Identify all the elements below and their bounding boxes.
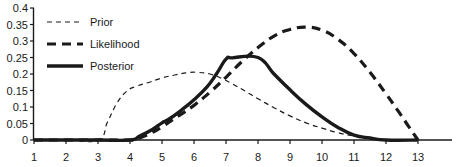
x-axis-tick-label: 6: [191, 152, 197, 163]
axes: [34, 8, 453, 140]
x-axis-tick-label: 10: [316, 152, 328, 163]
x-axis-tick-label: 3: [95, 152, 101, 163]
legend-label-likelihood: Likelihood: [90, 39, 140, 50]
y-axis-tick-label: 0.1: [13, 102, 28, 113]
y-axis-tick-label: 0.05: [7, 118, 28, 129]
y-axis-tick-label: 0.2: [13, 69, 28, 80]
x-axis-tick-label: 7: [223, 152, 229, 163]
y-axis-tick-label: 0.25: [7, 52, 28, 63]
x-axis-tick-label: 9: [287, 152, 293, 163]
x-axis-tick-label: 12: [380, 152, 392, 163]
y-axis-tick-label: 0.4: [13, 3, 28, 14]
legend-swatches: [47, 22, 83, 66]
x-axis-tick-label: 5: [159, 152, 165, 163]
x-axis-tick-label: 8: [255, 152, 261, 163]
y-axis-tick-label: 0.3: [13, 36, 28, 47]
x-axis-tick-label: 4: [127, 152, 133, 163]
y-axis-tick-label: 0.35: [7, 19, 28, 30]
series-line-prior: [34, 72, 418, 142]
y-axis-tick-label: 0.15: [7, 85, 28, 96]
legend-label-prior: Prior: [90, 17, 113, 28]
x-axis-tick-label: 13: [412, 152, 424, 163]
x-axis-tick-label: 11: [348, 152, 359, 163]
x-axis-tick-label: 2: [63, 152, 69, 163]
chart-container: 00.050.10.150.20.250.30.350.4 1234567891…: [0, 0, 457, 167]
legend-label-posterior: Posterior: [90, 61, 134, 72]
y-axis-tick-label: 0: [22, 135, 28, 146]
x-axis-tick-label: 1: [31, 152, 37, 163]
chart-plot-area: [0, 0, 457, 167]
